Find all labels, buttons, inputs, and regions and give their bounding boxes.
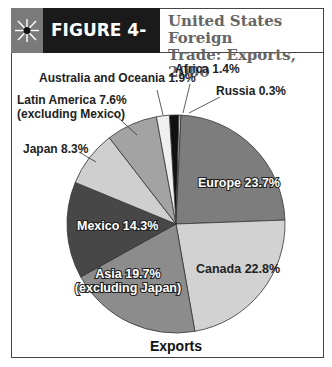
label-europe: Europe 23.7% xyxy=(198,176,280,190)
label-asia: Asia 19.7% xyxy=(95,267,160,281)
pie-chart: Africa 1.4% Russia 0.3% Australia and Oc… xyxy=(0,0,332,367)
pie-slice-europe xyxy=(176,115,285,224)
label-russia: Russia 0.3% xyxy=(216,84,286,98)
label-canada: Canada 22.8% xyxy=(196,262,280,276)
chart-caption: Exports xyxy=(150,338,202,354)
label-mexico: Mexico 14.3% xyxy=(77,219,158,233)
label-australia: Australia and Oceania 1.9% xyxy=(39,71,196,85)
label-japan: Japan 8.3% xyxy=(23,142,89,156)
label-asia-note: (excluding Japan) xyxy=(75,281,181,295)
label-latin-america: Latin America 7.6% xyxy=(17,93,127,107)
label-latin-america-note: (excluding Mexico) xyxy=(17,107,125,121)
